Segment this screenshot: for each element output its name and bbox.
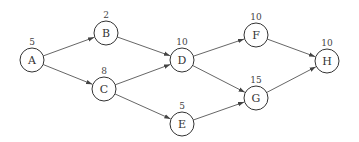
node-label: F [252,29,260,42]
edge-d-f [193,39,244,56]
edge-c-e [115,94,171,119]
edge-d-g [193,66,245,93]
node-h: H10 [315,38,339,73]
node-label: E [178,118,186,131]
node-e: E5 [170,101,194,136]
node-duration: 10 [321,38,333,48]
edge-f-h [267,39,315,57]
node-c: C8 [92,66,116,101]
node-label: C [100,83,108,96]
node-label: D [178,54,187,67]
edge-b-d [117,37,170,56]
edge-a-b [43,37,94,56]
edge-e-g [193,102,244,120]
node-duration: 8 [101,66,107,76]
node-duration: 15 [250,75,262,85]
node-a: A5 [20,37,44,72]
node-b: B2 [94,10,118,45]
node-duration: 10 [176,37,188,47]
node-label: B [102,27,110,40]
node-duration: 5 [29,37,35,47]
node-f: F10 [244,12,268,47]
edge-g-h [267,67,316,93]
node-label: G [252,92,261,105]
node-d: D10 [170,37,194,72]
node-label: A [27,54,37,67]
edge-a-c [43,65,92,85]
nodes-group: A5B2C8D10E5F10G15H10 [20,10,339,136]
edge-c-d [115,64,170,84]
node-duration: 10 [250,12,262,22]
node-duration: 5 [179,101,185,111]
network-diagram: A5B2C8D10E5F10G15H10 [0,0,359,142]
node-label: H [322,55,332,68]
node-g: G15 [244,75,268,110]
node-duration: 2 [103,10,109,20]
